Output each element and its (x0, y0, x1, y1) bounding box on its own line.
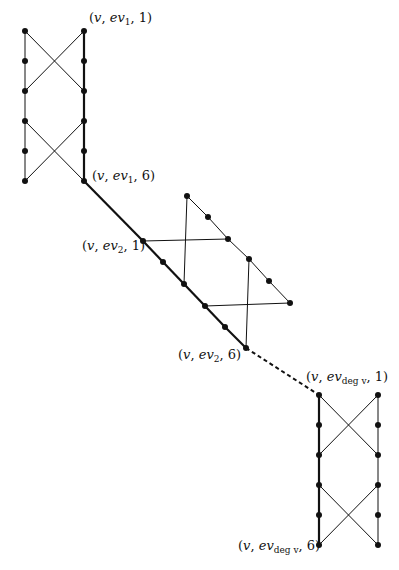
vertex-node (22, 88, 28, 94)
edge (269, 281, 290, 303)
edges (25, 31, 378, 545)
edge (208, 217, 228, 239)
label-v-evdeg-1: (v, evdeg v, 1) (306, 369, 388, 386)
path-edge (225, 327, 246, 348)
vertex-node (22, 28, 28, 34)
vertex-node (222, 324, 228, 330)
vertex-node (316, 422, 322, 428)
vertex-node (81, 28, 87, 34)
vertex-node (375, 482, 381, 488)
vertex-node (160, 259, 166, 265)
label-v-ev2-1: (v, ev2, 1) (82, 238, 145, 255)
vertex-node (316, 482, 322, 488)
vertex-node (246, 256, 252, 262)
vertex-node (225, 236, 231, 242)
cross-edge (246, 259, 249, 348)
vertex-node (243, 345, 249, 351)
vertex-node (22, 118, 28, 124)
vertex-node (22, 148, 28, 154)
vertex-node (375, 452, 381, 458)
vertex-node (81, 118, 87, 124)
path-edge (205, 306, 225, 327)
vertex-node (184, 193, 190, 199)
vertex-node (205, 214, 211, 220)
vertex-node (81, 58, 87, 64)
vertex-node (316, 392, 322, 398)
vertex-node (202, 303, 208, 309)
vertex-node (316, 512, 322, 518)
path-edge (163, 262, 184, 284)
path-edge (143, 241, 163, 262)
vertex-node (181, 281, 187, 287)
vertex-node (375, 392, 381, 398)
vertex-node (375, 422, 381, 428)
label-v-evdeg-6: (v, evdeg v, 6) (238, 538, 320, 555)
edge (249, 259, 269, 281)
vertex-node (266, 278, 272, 284)
vertex-node (287, 300, 293, 306)
vertex-node (316, 452, 322, 458)
label-v-ev2-6: (v, ev2, 6) (178, 347, 241, 364)
vertex-node (81, 88, 87, 94)
gadget-diagram: (v, ev1, 1) (v, ev1, 6) (v, ev2, 1) (v, … (0, 0, 399, 570)
edge (187, 196, 208, 217)
edge (228, 239, 249, 259)
connector-edge (84, 181, 143, 241)
vertex-node (375, 542, 381, 548)
vertex-node (22, 178, 28, 184)
vertex-node (375, 512, 381, 518)
label-v-ev1-6: (v, ev1, 6) (92, 168, 155, 185)
nodes (22, 28, 381, 548)
vertex-node (81, 178, 87, 184)
label-v-ev1-1: (v, ev1, 1) (89, 10, 152, 27)
vertex-node (22, 58, 28, 64)
vertex-node (81, 148, 87, 154)
path-edge (184, 284, 205, 306)
